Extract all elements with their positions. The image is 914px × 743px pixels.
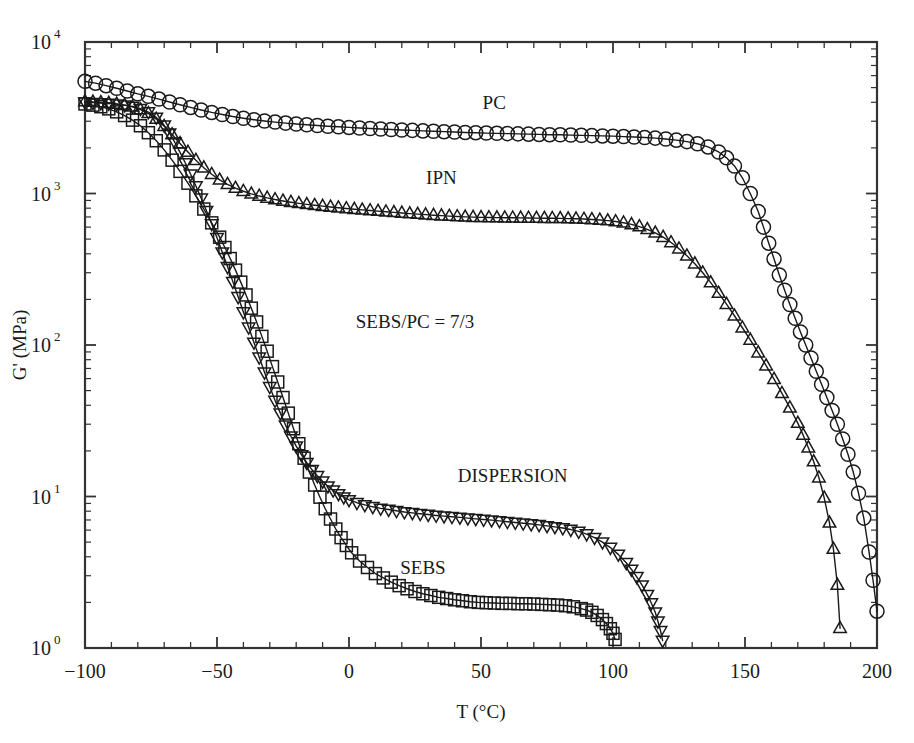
svg-text:10: 10 [31, 486, 51, 508]
x-tick-label: −100 [64, 660, 105, 682]
x-tick-label: 0 [344, 660, 354, 682]
svg-text:10: 10 [31, 334, 51, 356]
series-label-ipn: IPN [426, 167, 457, 188]
svg-text:10: 10 [31, 183, 51, 205]
x-tick-label: 100 [598, 660, 628, 682]
x-tick-label: 150 [730, 660, 760, 682]
svg-text:2: 2 [54, 329, 61, 344]
series-label-pc: PC [483, 92, 506, 113]
chart-annotation-0: SEBS/PC = 7/3 [356, 311, 474, 332]
series-label-dispersion: DISPERSION [458, 465, 568, 486]
svg-text:3: 3 [54, 178, 61, 193]
svg-text:4: 4 [54, 26, 61, 41]
svg-text:1: 1 [54, 481, 61, 496]
svg-text:10: 10 [31, 31, 51, 53]
dmta-storage-modulus-chart: −100−50050100150200100101102103104 PCIPN… [0, 0, 914, 743]
x-tick-label: −50 [201, 660, 232, 682]
series-label-sebs: SEBS [400, 557, 445, 578]
y-axis-label: G' (MPa) [9, 310, 31, 380]
svg-text:0: 0 [54, 632, 61, 647]
x-tick-label: 50 [471, 660, 491, 682]
svg-text:10: 10 [31, 637, 51, 659]
x-axis-label: T (°C) [457, 701, 506, 723]
x-tick-label: 200 [862, 660, 892, 682]
figure-container: −100−50050100150200100101102103104 PCIPN… [0, 0, 914, 743]
